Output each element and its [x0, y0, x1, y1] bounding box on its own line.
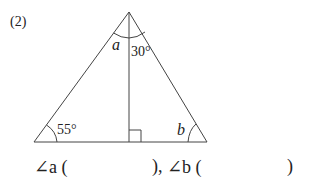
angle-30-label: 30°	[131, 44, 151, 60]
answer-a-prefix: ∠a (	[34, 156, 68, 178]
right-side	[129, 12, 207, 142]
left-side	[34, 12, 129, 142]
angle-a-label: a	[112, 36, 120, 54]
angle-55-arc	[47, 125, 58, 142]
angle-b-label: b	[177, 121, 185, 139]
answer-a-suffix: ),	[152, 156, 163, 177]
angle-b-arc	[188, 124, 196, 142]
answer-b-prefix: ∠b (	[167, 156, 202, 178]
answer-b-suffix: )	[287, 156, 293, 177]
right-angle-mark	[129, 130, 141, 142]
angle-55-label: 55°	[57, 122, 77, 138]
